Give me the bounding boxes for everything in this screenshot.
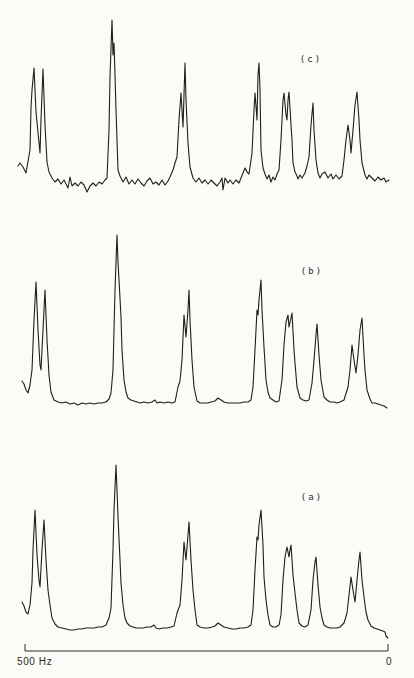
axis-label-0: 0 bbox=[386, 656, 392, 667]
x-axis-line bbox=[25, 644, 388, 651]
spectra-figure: (c) (b) (a) 500 Hz 0 bbox=[0, 0, 414, 678]
panel-label-c: (c) bbox=[300, 54, 322, 64]
axis-label-500hz: 500 Hz bbox=[17, 656, 52, 667]
spectra-canvas: (c) (b) (a) 500 Hz 0 bbox=[0, 0, 414, 678]
x-axis: 500 Hz 0 bbox=[17, 644, 392, 667]
spectrum-trace-a bbox=[22, 465, 388, 638]
panel-label-a: (a) bbox=[301, 492, 323, 502]
spectrum-trace-b bbox=[22, 235, 387, 408]
spectrum-trace-c bbox=[18, 20, 389, 192]
panel-label-b: (b) bbox=[301, 266, 323, 276]
